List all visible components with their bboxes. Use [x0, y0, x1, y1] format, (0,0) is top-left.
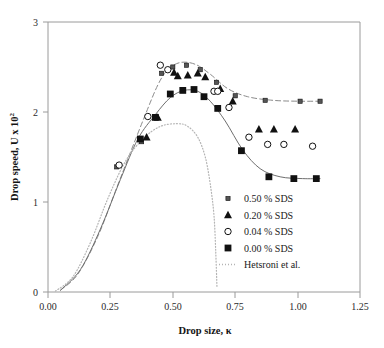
x-tick-label-4: 1.00 — [289, 301, 307, 312]
series-0-20-sds — [143, 68, 299, 140]
legend-item-1: 0.20 % SDS — [224, 210, 293, 221]
y-tick-label-1: 1 — [33, 197, 38, 208]
point-2-9 — [281, 141, 287, 147]
point-2-10 — [309, 143, 315, 149]
legend-item-4: Hetsroni et al. — [219, 259, 300, 270]
x-tick-label-3: 0.75 — [226, 301, 244, 312]
point-0-3 — [171, 65, 175, 69]
point-0-10 — [318, 99, 322, 103]
point-1-0 — [143, 133, 151, 140]
point-3-10 — [313, 175, 320, 182]
point-3-9 — [290, 175, 297, 182]
legend-label-1: 0.20 % SDS — [244, 210, 293, 221]
x-tick-label-1: 0.25 — [101, 301, 119, 312]
point-1-11 — [291, 125, 299, 132]
legend-marker-filled-square — [225, 245, 232, 252]
y-tick-label-2: 2 — [33, 107, 38, 118]
y-ticks: 3 2 1 0 — [33, 17, 48, 298]
axes-frame — [48, 22, 360, 292]
point-0-2 — [159, 71, 163, 75]
point-3-1 — [152, 114, 159, 121]
point-3-0 — [137, 136, 144, 143]
legend-item-0: 0.50 % SDS — [226, 193, 293, 204]
x-tick-label-0: 0.00 — [39, 301, 57, 312]
point-0-8 — [263, 98, 267, 102]
point-2-1 — [145, 113, 151, 119]
x-tick-label-5: 1.25 — [351, 301, 369, 312]
legend-item-2: 0.04 % SDS — [225, 226, 293, 237]
point-3-2 — [167, 91, 174, 98]
y-tick-label-0: 0 — [33, 287, 38, 298]
x-axis-title: Drop size, κ — [178, 325, 231, 336]
point-2-2 — [157, 62, 163, 68]
scatter-plot-svg: 3 2 1 0 0.00 0.25 0.50 0.75 1.00 1.25 Dr… — [0, 0, 384, 348]
point-1-9 — [255, 125, 263, 132]
point-3-8 — [265, 173, 272, 180]
point-1-10 — [270, 125, 278, 132]
legend-label-3: 0.00 % SDS — [244, 243, 293, 254]
point-1-6 — [201, 73, 209, 80]
fit-curves-layer — [55, 62, 322, 291]
x-ticks: 0.00 0.25 0.50 0.75 1.00 1.25 — [39, 292, 369, 312]
point-3-6 — [214, 105, 221, 112]
legend-marker-filled-triangle — [224, 211, 232, 218]
legend-label-4: Hetsroni et al. — [244, 259, 300, 270]
y-axis-title: Drop speed, U x 102 — [8, 112, 20, 201]
legend-item-3: 0.00 % SDS — [225, 243, 294, 254]
y-tick-label-3: 3 — [33, 17, 38, 28]
point-3-5 — [201, 93, 208, 100]
legend-label-2: 0.04 % SDS — [244, 226, 293, 237]
series-0-00-sds — [137, 86, 320, 182]
point-0-9 — [298, 99, 302, 103]
point-3-7 — [238, 147, 245, 154]
chart-figure: 3 2 1 0 0.00 0.25 0.50 0.75 1.00 1.25 Dr… — [0, 0, 384, 348]
fit-curve-0 — [60, 62, 322, 290]
point-3-4 — [191, 86, 198, 93]
y-axis-title-text: Drop speed, U x 10 — [9, 116, 20, 201]
legend-label-0: 0.50 % SDS — [244, 193, 293, 204]
series-0-04-sds — [116, 62, 316, 168]
x-tick-label-2: 0.50 — [164, 301, 182, 312]
point-2-3 — [165, 67, 171, 73]
point-0-6 — [214, 80, 218, 84]
point-1-4 — [184, 71, 192, 78]
point-2-5 — [215, 88, 221, 94]
y-axis-title-exponent: 2 — [8, 112, 16, 116]
chart-legend: 0.50 % SDS0.20 % SDS0.04 % SDS0.00 % SDS… — [219, 193, 300, 270]
legend-marker-open-circle — [225, 228, 231, 234]
point-0-7 — [233, 94, 237, 98]
fit-curve-2 — [55, 124, 216, 291]
point-3-3 — [179, 87, 186, 94]
point-2-0 — [116, 162, 122, 168]
point-2-7 — [246, 134, 252, 140]
point-2-6 — [226, 104, 232, 110]
point-2-8 — [264, 141, 270, 147]
svg-text:Drop speed, U x 102: Drop speed, U x 102 — [8, 112, 20, 201]
data-points-layer — [115, 62, 323, 182]
legend-marker-small-filled-square — [226, 196, 230, 200]
point-0-4 — [184, 63, 188, 67]
